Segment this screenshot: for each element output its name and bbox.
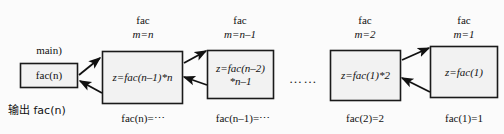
main-output-label: 输出 fac(n) — [8, 104, 66, 117]
call-arrow-frame3-to-frame4 — [402, 48, 429, 60]
frame-header-1: fac m=n — [133, 14, 154, 41]
frame-name-3: fac — [355, 14, 376, 28]
frame-footer-4: fac(1)=1 — [445, 112, 483, 125]
frame-name-4: fac — [454, 14, 475, 28]
frame-name-1: fac — [133, 14, 154, 28]
call-arrow-frame1-to-frame2 — [184, 51, 206, 63]
frame-name-2: fac — [224, 14, 256, 28]
frame-box-3 — [331, 51, 401, 101]
frame-state-1: m=n — [133, 28, 154, 42]
return-arrow-frame1-to-main — [80, 81, 102, 93]
frame-footer-3: fac(2)=2 — [346, 112, 384, 125]
return-arrow-frame4-to-frame3 — [402, 78, 430, 92]
frame-footer-1: fac(n)=⋯ — [121, 112, 164, 125]
frame-box-2 — [208, 51, 274, 99]
return-arrow-frame2-to-frame1 — [184, 77, 207, 85]
main-call-box — [21, 64, 78, 88]
frame-state-3: m=2 — [355, 28, 376, 42]
frame-header-4: fac m=1 — [454, 14, 475, 41]
frames-ellipsis: …… — [289, 71, 318, 87]
frame-state-4: m=1 — [454, 28, 475, 42]
frame-box-1 — [103, 52, 183, 104]
frame-footer-2: fac(n–1)=⋯ — [216, 112, 270, 125]
call-arrow-main-to-frame1 — [79, 58, 100, 75]
frame-state-2: m=n–1 — [224, 28, 256, 42]
recursion-call-diagram: main) fac(n) 输出 fac(n) fac m=n z=fac(n–1… — [0, 0, 504, 134]
frame-box-4 — [431, 47, 498, 98]
frame-header-2: fac m=n–1 — [224, 14, 256, 41]
main-caller-header: main) — [36, 44, 62, 57]
frame-header-3: fac m=2 — [355, 14, 376, 41]
